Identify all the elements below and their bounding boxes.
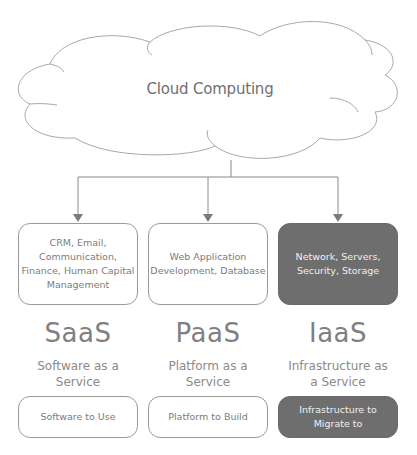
description-line: Service (143, 374, 273, 390)
saas-feature-line: Management (22, 278, 135, 292)
saas-feature-line: Finance, Human Capital (22, 264, 135, 278)
saas-purpose-text: Software to Use (40, 410, 115, 424)
arrowheads (73, 214, 343, 222)
paas-feature-line: Development, Database (150, 264, 265, 278)
saas-feature-line: Communication, (22, 250, 135, 264)
iaas-feature-line: Security, Storage (296, 264, 381, 278)
connector-lines (78, 160, 338, 215)
description-line: a Service (273, 374, 403, 390)
description-line: Service (13, 374, 143, 390)
saas-features-box: CRM, Email, Communication, Finance, Huma… (18, 223, 138, 305)
iaas-title: IaaS (273, 318, 403, 348)
description-line: Software as a (13, 358, 143, 374)
cloud-computing-label: Cloud Computing (120, 80, 300, 98)
paas-description: Platform as a Service (143, 358, 273, 390)
saas-purpose-box: Software to Use (18, 396, 138, 438)
paas-purpose-text: Platform to Build (168, 410, 248, 424)
description-line: Platform as a (143, 358, 273, 374)
iaas-purpose-line: Infrastructure to (299, 403, 377, 417)
saas-description: Software as a Service (13, 358, 143, 390)
paas-feature-line: Web Application (150, 250, 265, 264)
iaas-features-box: Network, Servers, Security, Storage (278, 223, 398, 305)
iaas-description: Infrastructure as a Service (273, 358, 403, 390)
saas-title: SaaS (13, 318, 143, 348)
paas-features-box: Web Application Development, Database (148, 223, 268, 305)
saas-feature-line: CRM, Email, (22, 236, 135, 250)
iaas-purpose-box: Infrastructure to Migrate to (278, 396, 398, 438)
iaas-feature-line: Network, Servers, (296, 250, 381, 264)
paas-title: PaaS (143, 318, 273, 348)
paas-purpose-box: Platform to Build (148, 396, 268, 438)
iaas-purpose-line: Migrate to (299, 417, 377, 431)
description-line: Infrastructure as (273, 358, 403, 374)
